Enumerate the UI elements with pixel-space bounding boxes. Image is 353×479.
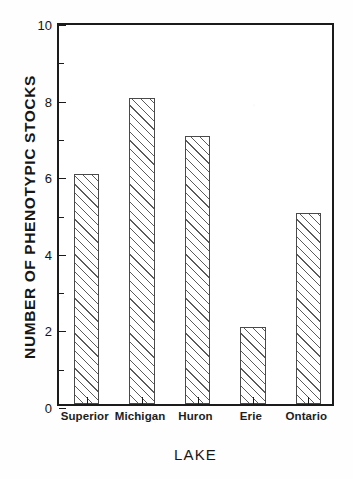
x-axis-tick-label: Ontario [286, 410, 328, 422]
y-axis-tick [59, 178, 66, 179]
y-axis-tick-label: 0 [45, 401, 52, 416]
x-axis-tick-label: Erie [240, 410, 262, 422]
x-axis-tick [198, 397, 199, 404]
y-axis-tick-label: 10 [38, 18, 52, 33]
bar [129, 98, 155, 404]
y-axis-title: NUMBER OF PHENOTYPIC STOCKS [21, 32, 39, 402]
bars-layer [59, 25, 332, 404]
bar [74, 174, 100, 404]
y-axis-tick [59, 25, 66, 26]
x-axis-tick [142, 397, 143, 404]
y-axis-minor-tick [59, 63, 64, 64]
x-axis-title: LAKE [57, 446, 334, 463]
x-axis-tick-label: Superior [61, 410, 109, 422]
bar [296, 213, 322, 405]
x-axis-tick-label: Huron [178, 410, 212, 422]
x-axis-tick [87, 397, 88, 404]
x-axis-tick [308, 397, 309, 404]
y-axis-minor-tick [59, 293, 64, 294]
y-axis-tick [59, 255, 66, 256]
bar [185, 136, 211, 404]
y-axis-tick-label: 2 [45, 324, 52, 339]
y-axis-minor-tick [59, 140, 64, 141]
x-axis-tick-label: Michigan [115, 410, 166, 422]
y-axis-tick-label: 8 [45, 94, 52, 109]
bar-chart-figure: NUMBER OF PHENOTYPIC STOCKS 0246810 LAKE… [0, 0, 353, 479]
y-axis-tick-label: 4 [45, 247, 52, 262]
y-axis-tick [59, 331, 66, 332]
bar [240, 327, 266, 404]
y-axis-tick [59, 408, 66, 409]
y-axis-tick-label: 6 [45, 171, 52, 186]
y-axis-tick [59, 102, 66, 103]
plot-area: 0246810 [57, 23, 334, 406]
y-axis-minor-tick [59, 370, 64, 371]
y-axis-minor-tick [59, 217, 64, 218]
x-axis-tick [253, 397, 254, 404]
